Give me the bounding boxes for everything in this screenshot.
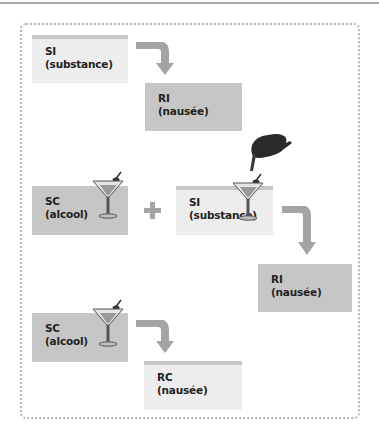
stage1-si-label: (substance) bbox=[45, 58, 128, 71]
stage3-rc-box: RC (nausée) bbox=[144, 361, 242, 410]
curved-arrow-icon bbox=[280, 206, 320, 258]
martini-glass-icon bbox=[230, 172, 266, 222]
stage2-ri-label: (nausée) bbox=[271, 286, 352, 299]
curved-arrow-icon bbox=[134, 320, 174, 356]
top-rule bbox=[0, 2, 379, 4]
plus-icon bbox=[144, 202, 161, 219]
martini-glass-icon bbox=[90, 170, 126, 220]
stage2-ri-box: RI (nausée) bbox=[258, 264, 352, 312]
stage3-rc-code: RC bbox=[157, 371, 242, 384]
stage1-si-code: SI bbox=[45, 45, 128, 58]
stage2-ri-code: RI bbox=[271, 273, 352, 286]
stage1-si-box: SI (substance) bbox=[32, 35, 128, 83]
stage1-ri-code: RI bbox=[158, 92, 242, 105]
martini-glass-icon bbox=[90, 298, 126, 348]
stage3-rc-label: (nausée) bbox=[157, 384, 242, 397]
stage1-ri-label: (nausée) bbox=[158, 105, 242, 118]
stage1-ri-box: RI (nausée) bbox=[145, 83, 242, 131]
hand-dropper-icon bbox=[244, 131, 294, 176]
curved-arrow-icon bbox=[134, 42, 174, 78]
